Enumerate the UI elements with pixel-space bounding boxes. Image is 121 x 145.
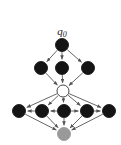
- graph-node-visited[interactable]: [56, 39, 69, 52]
- graph-node-visited[interactable]: [81, 105, 94, 118]
- graph-edge: [69, 73, 83, 86]
- graph-canvas: q0: [0, 0, 121, 145]
- graph-node-visited[interactable]: [58, 105, 71, 118]
- label-layer: q0: [57, 25, 67, 39]
- graph-edge: [46, 73, 57, 85]
- graph-edge: [67, 50, 81, 63]
- search-tree-diagram: q0: [0, 0, 121, 145]
- graph-node-visited[interactable]: [13, 105, 26, 118]
- graph-edge: [68, 95, 80, 105]
- graph-node-visited[interactable]: [36, 105, 49, 118]
- graph-node-visited[interactable]: [82, 62, 95, 75]
- graph-node-visited[interactable]: [56, 62, 69, 75]
- graph-node-visited[interactable]: [35, 62, 48, 75]
- graph-edge: [47, 50, 57, 61]
- graph-node-goal[interactable]: [58, 128, 71, 141]
- graph-node-visited[interactable]: [103, 105, 116, 118]
- start-state-label: q0: [57, 25, 67, 39]
- graph-node-frontier[interactable]: [57, 85, 69, 97]
